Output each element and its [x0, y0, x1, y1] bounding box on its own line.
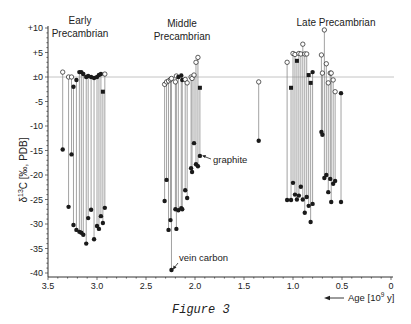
filled-circle-marker — [69, 152, 73, 156]
filled-circle-marker — [295, 197, 299, 201]
y-tick-label: -30 — [30, 219, 43, 229]
filled-circle-marker — [99, 214, 103, 218]
filled-circle-marker — [86, 216, 90, 220]
filled-circle-marker — [174, 227, 178, 231]
x-axis-label-main: Age [10 — [348, 292, 381, 303]
open-circle-marker — [103, 72, 107, 76]
x-tick-label: 2.0 — [189, 281, 202, 291]
y-tick-label: -10 — [30, 121, 43, 131]
filled-circle-marker — [92, 237, 96, 241]
filled-circle-marker — [306, 204, 310, 208]
y-axis-label-rest: C [‰, PDB] — [18, 137, 29, 189]
open-circle-marker — [196, 55, 200, 59]
x-tick-label: 0 — [388, 281, 393, 291]
filled-circle-marker — [179, 73, 183, 77]
filled-circle-marker — [333, 179, 337, 183]
left-arrow-icon — [324, 296, 330, 300]
x-tick-label: 3.5 — [42, 281, 55, 291]
filled-square-marker — [309, 81, 313, 85]
graphite-arrowhead-icon — [202, 155, 206, 158]
filled-circle-marker — [308, 220, 312, 224]
x-tick-label: 2.5 — [140, 281, 153, 291]
filled-circle-marker — [74, 78, 78, 82]
y-tick-label: -15 — [30, 146, 43, 156]
group-label-late: Late Precambrian — [297, 17, 376, 28]
filled-circle-marker — [310, 70, 314, 74]
open-circle-marker — [329, 71, 333, 75]
filled-circle-marker — [329, 200, 333, 204]
filled-circle-marker — [257, 139, 261, 143]
y-tick-label: -25 — [30, 195, 43, 205]
filled-circle-marker — [97, 227, 101, 231]
y-tick-label: +10 — [28, 23, 43, 33]
stems — [63, 30, 341, 270]
y-tick-label: -40 — [30, 268, 43, 278]
figure-caption: Figure 3 — [172, 303, 230, 317]
filled-circle-marker — [180, 207, 184, 211]
filled-circle-marker — [61, 147, 65, 151]
y-tick-label: ±0 — [33, 72, 43, 82]
y-tick-label: +5 — [33, 48, 43, 58]
group-label-early-line1: Early — [69, 15, 92, 26]
open-circle-marker — [61, 70, 65, 74]
group-label-middle-line2: Precambrian — [154, 31, 211, 42]
figure-3-chart: +10+5±0-5-10-15-20-25-30-35-403.53.02.52… — [0, 0, 411, 324]
x-tick-label: 0.5 — [336, 281, 349, 291]
filled-circle-marker — [168, 218, 172, 222]
filled-circle-marker — [89, 208, 93, 212]
filled-square-marker — [307, 73, 311, 77]
open-circle-marker — [285, 60, 289, 64]
open-circle-marker — [322, 28, 326, 32]
open-circle-marker — [69, 75, 73, 79]
annotation-graphite: graphite — [202, 154, 247, 165]
filled-circle-marker — [71, 223, 75, 227]
filled-circle-marker — [166, 228, 170, 232]
x-tick-label: 1.5 — [238, 281, 251, 291]
open-circle-marker — [257, 80, 261, 84]
group-label-middle-line1: Middle — [167, 18, 197, 29]
filled-circle-marker — [301, 197, 305, 201]
filled-circle-marker — [103, 206, 107, 210]
open-circle-marker — [333, 90, 337, 94]
filled-circle-marker — [293, 192, 297, 196]
graphite-label: graphite — [213, 154, 247, 165]
filled-square-marker — [289, 86, 293, 90]
open-circle-marker — [324, 62, 328, 66]
filled-circle-marker — [196, 164, 200, 168]
filled-circle-marker — [190, 170, 194, 174]
filled-square-marker — [295, 59, 299, 63]
filled-circle-marker — [328, 177, 332, 181]
filled-circle-marker — [164, 178, 168, 182]
filled-square-marker — [101, 90, 105, 94]
vein-carbon-label: vein carbon — [179, 252, 228, 263]
filled-circle-marker — [299, 185, 303, 189]
filled-circle-marker — [185, 196, 189, 200]
filled-circle-marker — [84, 241, 88, 245]
open-circle-marker — [326, 81, 330, 85]
x-axis-label-rest: y] — [384, 292, 394, 303]
filled-circle-marker — [285, 198, 289, 202]
filled-circle-marker — [297, 193, 301, 197]
x-tick-label: 1.0 — [287, 281, 300, 291]
filled-circle-marker — [305, 195, 309, 199]
filled-circle-marker — [326, 190, 330, 194]
open-circle-marker — [169, 76, 173, 80]
filled-circle-marker — [192, 141, 196, 145]
filled-circle-marker — [81, 233, 85, 237]
y-axis-label-superscript: 13 — [17, 189, 24, 197]
open-circle-marker — [320, 71, 324, 75]
filled-circle-marker — [198, 154, 202, 158]
tick-labels: +10+5±0-5-10-15-20-25-30-35-403.53.02.52… — [28, 23, 394, 291]
filled-circle-marker — [320, 133, 324, 137]
filled-circle-marker — [339, 200, 343, 204]
y-tick-label: -20 — [30, 170, 43, 180]
filled-circle-marker — [289, 198, 293, 202]
open-circle-marker — [194, 60, 198, 64]
filled-circle-marker — [101, 221, 105, 225]
x-axis-label-group: Age [109 y] — [324, 291, 394, 303]
filled-circle-marker — [339, 91, 343, 95]
open-circle-marker — [319, 53, 323, 57]
filled-circle-marker — [71, 85, 75, 89]
filled-circle-marker — [189, 166, 193, 170]
filled-circle-marker — [162, 199, 166, 203]
